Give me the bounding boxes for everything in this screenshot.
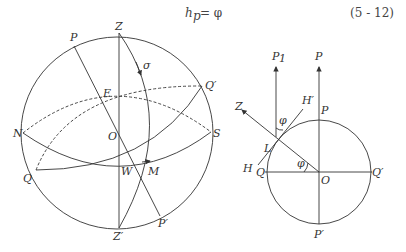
label-q-prime: Q′ (205, 79, 217, 92)
left-labels: Z P σ Q′ E N O S Q W M Z′ P′ (12, 20, 221, 243)
horizon-back (23, 96, 211, 133)
label-z: Z (114, 20, 123, 33)
label-sigma: σ (143, 59, 151, 72)
label-l: L (263, 142, 271, 155)
label-o: O (108, 130, 117, 143)
right-figure (242, 67, 372, 224)
label-p: P (69, 31, 78, 44)
label-p-prime: P′ (157, 217, 168, 230)
label-e: E (102, 87, 111, 100)
equation-rhs: = φ (200, 6, 222, 20)
sigma-arrow (136, 62, 141, 75)
equation-lhs: h (185, 6, 193, 20)
label-o-right: O (321, 174, 330, 187)
celestial-sphere-diagram: h p = φ (5 - 12) Z P σ Q′ E N O S Q W (0, 0, 406, 252)
label-m: M (147, 165, 160, 178)
label-phi-lower: φ (297, 157, 305, 170)
label-phi-upper: φ (279, 114, 287, 127)
label-w: W (121, 165, 134, 178)
label-s: S (213, 127, 221, 140)
label-q-prime-right: Q′ (372, 166, 384, 179)
phi-arc-upper (276, 128, 283, 130)
label-z-prime: Z′ (112, 230, 124, 243)
right-labels: P 1 P Z H′ φ P L φ H Q O Q′ P′ (234, 50, 384, 241)
label-h-prime: H′ (301, 94, 315, 107)
label-h: H (242, 162, 253, 175)
label-p-prime-right: P′ (313, 228, 324, 241)
label-q: Q (23, 172, 32, 185)
label-p-top: P (314, 50, 323, 63)
m-arrow (142, 161, 150, 162)
equation-number: (5 - 12) (350, 6, 394, 20)
equation: h p = φ (5 - 12) (185, 6, 394, 23)
label-q-right: Q (256, 166, 265, 179)
label-p1-sub: 1 (279, 52, 286, 65)
label-z-right: Z (234, 100, 243, 113)
label-p-circle: P (320, 104, 329, 117)
label-n: N (12, 127, 23, 140)
